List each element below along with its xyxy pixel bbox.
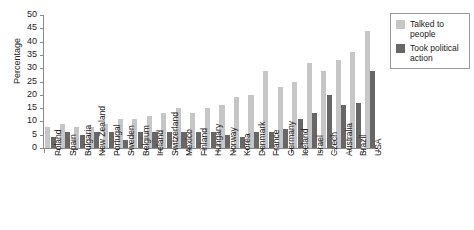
legend-swatch-icon <box>396 20 405 29</box>
x-axis-tick-label: Sweden <box>127 125 136 156</box>
x-axis-tick-label: Ireland <box>156 130 165 156</box>
x-axis-tick-label: Norway <box>229 127 238 156</box>
x-axis-tick-label: Germany <box>287 121 296 156</box>
y-axis-tick-label: 30 <box>1 62 37 73</box>
chart-legend: Talked to people Took political action <box>390 13 470 69</box>
bar-group <box>363 15 378 148</box>
x-axis-tick-label: Switzerland <box>171 112 180 156</box>
y-axis-tick-label: 25 <box>1 76 37 87</box>
legend-item-took-political-action: Took political action <box>396 43 465 63</box>
bar-group <box>44 15 59 148</box>
bar <box>365 31 370 148</box>
y-axis-tick-label: 15 <box>1 102 37 113</box>
x-axis-tick-label: France <box>272 130 281 156</box>
legend-swatch-icon <box>396 44 405 53</box>
x-axis-labels: PolandSpainBulgariaNew ZealandPortugalSw… <box>44 154 378 230</box>
x-axis-tick-label: Hungary <box>214 124 223 156</box>
bar-group <box>59 15 74 148</box>
y-axis-tick-label: 5 <box>1 129 37 140</box>
bar-group <box>320 15 335 148</box>
x-axis-tick-label: Israel <box>316 135 325 156</box>
legend-item-label: Talked to people <box>410 19 465 39</box>
y-axis-tick-label: 0 <box>1 142 37 153</box>
y-axis-tick-label: 50 <box>1 9 37 20</box>
x-axis-tick-label: Bulgaria <box>84 125 93 156</box>
x-axis-tick-label: Korea <box>243 133 252 156</box>
x-axis-tick-label: Portugal <box>113 124 122 156</box>
x-axis-tick-label: New Zealand <box>98 106 107 156</box>
x-axis-tick-label: Spain <box>69 134 78 156</box>
x-axis-tick-label: Finland <box>200 128 209 156</box>
y-axis-tick-label: 10 <box>1 115 37 126</box>
bar-chart: Percentage 05101520253035404550 PolandSp… <box>0 0 474 230</box>
x-axis-tick-label: Poland <box>54 130 63 156</box>
x-axis-tick-label: Czech <box>330 132 339 156</box>
x-axis-tick-label: Australia <box>345 123 354 156</box>
legend-item-talked-to-people: Talked to people <box>396 19 465 39</box>
bar <box>45 127 50 148</box>
y-axis-tick-label: 40 <box>1 36 37 47</box>
x-axis-tick-label: Denmark <box>258 122 267 156</box>
bar <box>370 71 375 148</box>
legend-item-label: Took political action <box>410 43 465 63</box>
y-axis-tick-label: 20 <box>1 89 37 100</box>
x-axis-tick-label: USA <box>374 139 383 156</box>
x-axis-tick-label: Brazil <box>359 135 368 156</box>
y-axis-tick-label: 35 <box>1 49 37 60</box>
bar-series-area <box>44 15 378 148</box>
x-axis-tick-mark <box>44 149 45 153</box>
x-axis-tick-label: Belgium <box>142 125 151 156</box>
x-axis-tick-label: Mexico <box>185 129 194 156</box>
x-axis-tick-label: Iceland <box>301 129 310 156</box>
y-axis-tick-label: 45 <box>1 22 37 33</box>
